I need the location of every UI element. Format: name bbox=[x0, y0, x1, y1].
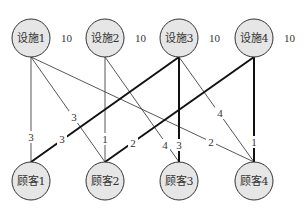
nodes-layer: 设施110设施210设施310设施410顾客1顾客2顾客3顾客4 bbox=[12, 19, 296, 200]
edge-weight-label: 3 bbox=[71, 111, 77, 123]
capacity-label: 10 bbox=[284, 32, 296, 44]
node-label: 顾客4 bbox=[240, 174, 269, 188]
edge-weight-label: 1 bbox=[102, 133, 108, 145]
customer-node: 顾客3 bbox=[160, 162, 198, 200]
weight-labels-layer: 3321433421 bbox=[26, 107, 259, 151]
node-label: 顾客2 bbox=[91, 174, 120, 188]
facility-node: 设施110 bbox=[12, 19, 73, 57]
facility-customer-graph: 3321433421 设施110设施210设施310设施410顾客1顾客2顾客3… bbox=[0, 0, 305, 216]
node-label: 顾客3 bbox=[165, 174, 194, 188]
edge-weight-label: 1 bbox=[251, 136, 257, 148]
node-label: 设施1 bbox=[17, 32, 46, 45]
facility-node: 设施410 bbox=[235, 19, 296, 57]
edge-weight-label: 4 bbox=[162, 139, 168, 151]
edge-weight-label: 2 bbox=[130, 137, 136, 149]
capacity-label: 10 bbox=[209, 32, 221, 44]
capacity-label: 10 bbox=[61, 32, 73, 44]
facility-node: 设施210 bbox=[86, 19, 147, 57]
customer-node: 顾客2 bbox=[86, 162, 124, 200]
edge-weight-label: 3 bbox=[28, 131, 34, 143]
edge-weight-label: 3 bbox=[176, 139, 182, 151]
edge-weight-label: 2 bbox=[208, 136, 214, 148]
node-label: 设施3 bbox=[165, 32, 194, 45]
node-label: 顾客1 bbox=[17, 174, 46, 188]
customer-node: 顾客4 bbox=[235, 162, 273, 200]
customer-node: 顾客1 bbox=[12, 162, 50, 200]
edge-f1-c2 bbox=[31, 57, 105, 162]
node-label: 设施4 bbox=[240, 32, 269, 45]
edge-weight-label: 3 bbox=[59, 133, 65, 145]
node-label: 设施2 bbox=[91, 32, 120, 45]
edge-weight-label: 4 bbox=[217, 107, 223, 119]
capacity-label: 10 bbox=[135, 32, 147, 44]
facility-node: 设施310 bbox=[160, 19, 221, 57]
